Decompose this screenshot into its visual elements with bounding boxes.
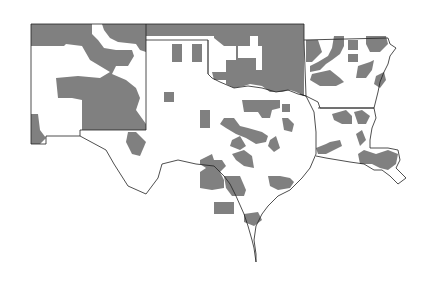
map-canvas	[0, 0, 428, 283]
shaded-counties	[31, 24, 398, 226]
